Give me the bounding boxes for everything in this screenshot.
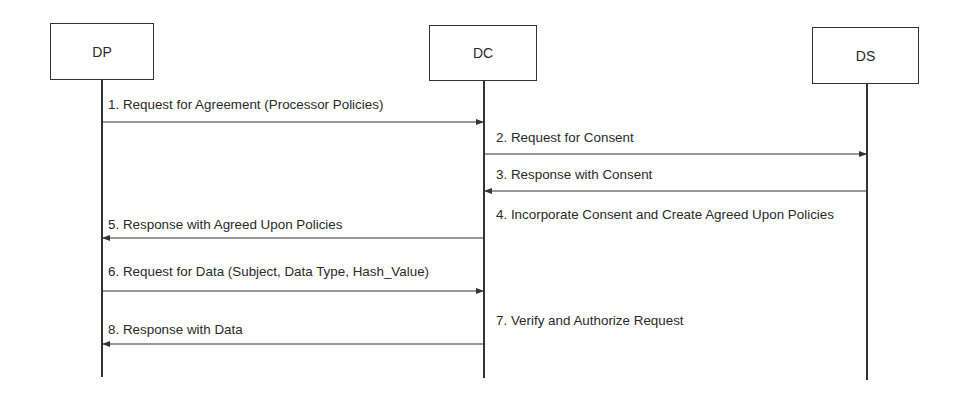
message-label-4: 4. Incorporate Consent and Create Agreed…: [496, 207, 834, 223]
message-label-3: 3. Response with Consent: [496, 167, 652, 183]
message-label-5: 5. Response with Agreed Upon Policies: [108, 217, 342, 233]
arrowhead-icon: [102, 235, 110, 241]
message-label-2: 2. Request for Consent: [496, 130, 634, 146]
message-label-1: 1. Request for Agreement (Processor Poli…: [108, 97, 383, 113]
message-label-8: 8. Response with Data: [108, 322, 243, 338]
message-label-7: 7. Verify and Authorize Request: [496, 313, 684, 329]
arrowhead-icon: [484, 188, 492, 194]
message-arrows: [0, 0, 964, 399]
arrowhead-icon: [476, 119, 484, 125]
arrowhead-icon: [476, 288, 484, 294]
arrowhead-icon: [102, 341, 110, 347]
arrowhead-icon: [859, 151, 867, 157]
message-label-6: 6. Request for Data (Subject, Data Type,…: [108, 264, 429, 280]
